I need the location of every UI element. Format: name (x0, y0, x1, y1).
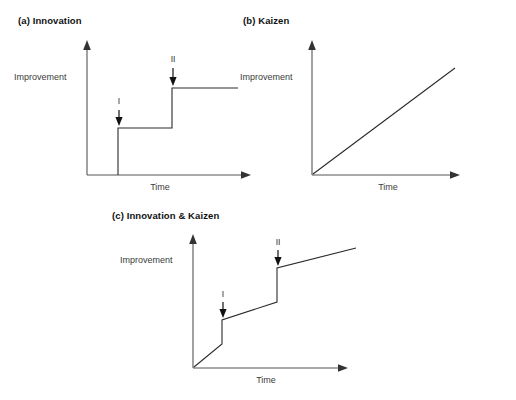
panel-a-arrow-one-head (115, 117, 122, 126)
panel-c-marker-two-label: II (276, 237, 281, 247)
panel-c-marker-one-label: I (222, 289, 224, 299)
panel-a-y-axis-arrowhead (83, 40, 91, 50)
panel-a-marker-one: I (115, 96, 122, 126)
panel-c-arrow-one-head (219, 309, 226, 318)
panel-c-title: (c) Innovation & Kaizen (112, 210, 219, 221)
panel-innovation-and-kaizen: (c) Innovation & Kaizen Improvement Time… (112, 210, 356, 385)
figure-canvas: (a) Innovation Improvement Time I II (b)… (0, 0, 516, 400)
panel-a-step-curve (118, 88, 238, 175)
panel-c-y-axis-arrowhead (189, 234, 197, 244)
panel-b-x-axis-arrowhead (450, 171, 460, 179)
panel-a-marker-two-label: II (171, 54, 176, 64)
panel-a-x-axis-arrowhead (241, 171, 251, 179)
panel-a-y-axis-label: Improvement (14, 72, 67, 82)
panel-c-marker-one: I (219, 289, 226, 318)
panel-innovation: (a) Innovation Improvement Time I II (14, 15, 251, 192)
panel-c-arrow-two-head (274, 257, 281, 266)
panel-a-title: (a) Innovation (18, 15, 82, 26)
panel-a-arrow-two-head (169, 77, 176, 86)
panel-c-x-axis-label: Time (256, 375, 276, 385)
panel-b-slope-curve (313, 68, 455, 174)
panel-kaizen: (b) Kaizen Improvement Time (240, 15, 460, 192)
panel-a-x-axis-label: Time (150, 182, 170, 192)
panel-b-y-axis-label: Improvement (240, 72, 293, 82)
panel-c-marker-two: II (274, 237, 281, 266)
panel-c-y-axis-label: Improvement (120, 255, 173, 265)
panel-a-marker-one-label: I (118, 96, 120, 106)
panel-b-y-axis-arrowhead (308, 40, 316, 50)
panel-b-title: (b) Kaizen (243, 15, 289, 26)
panel-c-x-axis-arrowhead (338, 364, 348, 372)
panel-b-x-axis-label: Time (378, 182, 398, 192)
panel-a-marker-two: II (169, 54, 176, 86)
panel-c-combined-curve (194, 248, 356, 367)
